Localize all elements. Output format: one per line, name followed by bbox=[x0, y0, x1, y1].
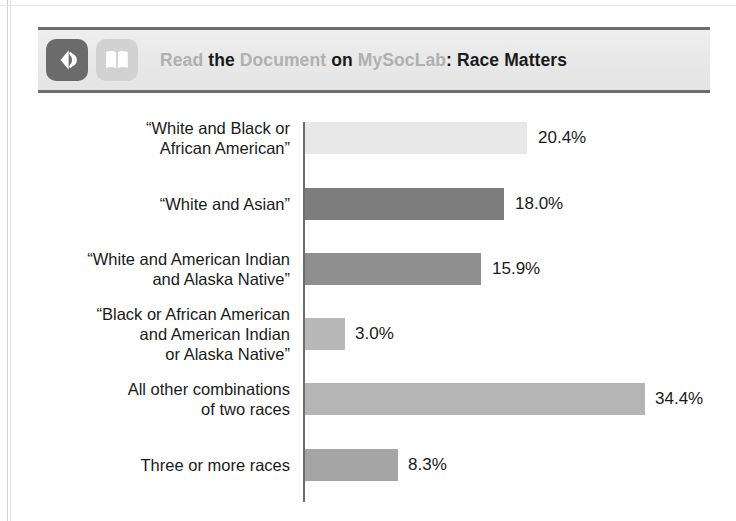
bar bbox=[305, 318, 345, 350]
bar bbox=[305, 188, 504, 220]
page-border-top bbox=[0, 5, 736, 6]
open-book-icon[interactable] bbox=[96, 39, 138, 81]
bar-category-label: “White and American Indian and Alaska Na… bbox=[87, 249, 290, 289]
bar-value-label: 18.0% bbox=[515, 188, 563, 220]
banner-title-part-1: the bbox=[208, 50, 235, 71]
bar-value-label: 20.4% bbox=[538, 122, 586, 154]
bar bbox=[305, 122, 527, 154]
bar-chart: “White and Black or African American”20.… bbox=[0, 110, 736, 510]
chart-axis-line bbox=[303, 122, 305, 502]
bar bbox=[305, 449, 398, 481]
banner-title-part-2: Document bbox=[240, 50, 326, 71]
mysoclab-banner[interactable]: ReadtheDocumentonMySocLab: Race Matters bbox=[38, 27, 710, 93]
bar-category-label: All other combinations of two races bbox=[128, 379, 290, 419]
banner-title-part-3: on bbox=[331, 50, 353, 71]
bar-value-label: 34.4% bbox=[655, 383, 703, 415]
bar-value-label: 8.3% bbox=[408, 449, 447, 481]
bar-value-label: 3.0% bbox=[355, 318, 394, 350]
bar-category-label: “White and Black or African American” bbox=[146, 118, 290, 158]
banner-title: ReadtheDocumentonMySocLab: Race Matters bbox=[160, 27, 572, 93]
bar-category-label: “Black or African American and American … bbox=[97, 304, 291, 364]
bar-category-label: “White and Asian” bbox=[160, 194, 290, 214]
bar bbox=[305, 383, 645, 415]
banner-title-part-0: Read bbox=[160, 50, 203, 71]
banner-title-part-4: MySocLab bbox=[358, 50, 446, 71]
audio-waves-icon[interactable] bbox=[46, 39, 88, 81]
banner-title-part-5: : Race Matters bbox=[446, 50, 567, 71]
bar-category-label: Three or more races bbox=[141, 455, 290, 475]
bar-value-label: 15.9% bbox=[492, 253, 540, 285]
bar bbox=[305, 253, 481, 285]
